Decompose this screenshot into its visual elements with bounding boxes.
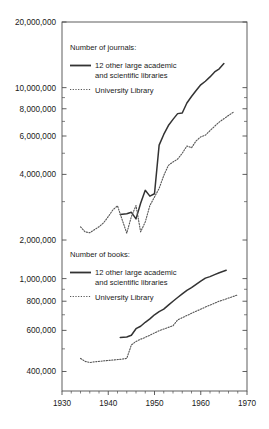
legend-journals: Number of journals:12 other large academ… (70, 43, 177, 95)
series-line-university-library (81, 295, 238, 363)
y-tick-label: 1,000,000 (20, 275, 57, 284)
y-tick-label: 2,000,000 (20, 236, 57, 245)
y-tick-label: 800,000 (26, 297, 56, 306)
x-tick-label: 1970 (238, 399, 257, 408)
legend-entry-solid-line2: and scientific libraries (95, 278, 168, 287)
panel-journals: 2,000,0004,000,0006,000,0008,000,00010,0… (15, 18, 247, 245)
y-tick-label: 10,000,000 (15, 84, 56, 93)
x-axis: 19301940195019601970 (53, 391, 257, 408)
x-tick-label: 1930 (53, 399, 72, 408)
y-tick-label: 6,000,000 (20, 132, 57, 141)
y-tick-label: 4,000,000 (20, 170, 57, 179)
legend-title: Number of books: (70, 250, 130, 259)
legend-books: Number of books:12 other large academica… (70, 250, 177, 302)
legend-entry-solid-line1: 12 other large academic (95, 61, 177, 70)
chart-container: 193019401950196019702,000,0004,000,0006,… (0, 0, 269, 429)
x-tick-label: 1940 (99, 399, 118, 408)
library-growth-chart: 193019401950196019702,000,0004,000,0006,… (0, 0, 269, 429)
y-tick-label: 8,000,000 (20, 105, 57, 114)
x-tick-label: 1960 (192, 399, 211, 408)
legend-entry-solid-line2: and scientific libraries (95, 71, 168, 80)
legend-entry-dotted: University Library (95, 86, 154, 95)
y-tick-label: 600,000 (26, 326, 56, 335)
legend-entry-solid-line1: 12 other large academic (95, 268, 177, 277)
y-tick-label: 20,000,000 (15, 18, 56, 27)
legend-title: Number of journals: (70, 43, 136, 52)
y-tick-label: 400,000 (26, 367, 56, 376)
x-tick-label: 1950 (145, 399, 164, 408)
legend-entry-dotted: University Library (95, 293, 154, 302)
